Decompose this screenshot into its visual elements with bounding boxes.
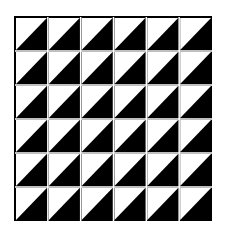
triangle-pattern-grid [14,16,212,221]
triangle-pattern [15,17,212,221]
